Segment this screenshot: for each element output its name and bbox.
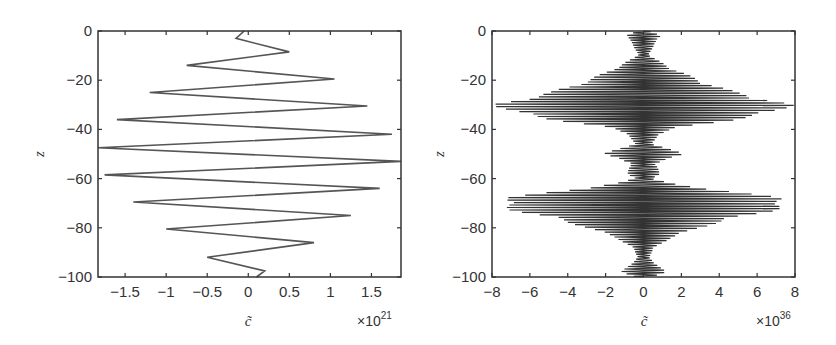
right-chart: −8−6−4−2024680−20−40−60−80−100 c̃ z ×103… (418, 0, 836, 345)
right-x-multiplier: ×1036 (756, 310, 791, 329)
right-data-line (496, 31, 794, 277)
right-y-tick-label: 0 (478, 22, 486, 39)
right-y-tick-label: −100 (452, 268, 486, 285)
right-x-tick-label: 8 (791, 283, 799, 300)
left-y-tick-label: −80 (67, 219, 92, 236)
left-y-tick-label: −60 (67, 170, 92, 187)
right-x-tick-label: −8 (483, 283, 500, 300)
right-y-tick-label: −60 (461, 170, 486, 187)
right-y-tick-label: −20 (461, 71, 486, 88)
right-plot-area (496, 31, 794, 277)
right-x-tick-label: −6 (521, 283, 538, 300)
left-x-tick-label: 1.5 (361, 283, 382, 300)
left-axes: −1.5−1−0.500.511.50−20−40−60−80−100 (58, 22, 401, 300)
right-x-tick-label: −2 (597, 283, 614, 300)
right-x-tick-label: −4 (559, 283, 576, 300)
left-y-axis-label: z (31, 151, 47, 158)
left-data-line (98, 31, 401, 277)
left-y-tick-label: −100 (58, 268, 92, 285)
left-chart: −1.5−1−0.500.511.50−20−40−60−80−100 c̃ z… (0, 0, 418, 345)
left-y-tick-label: −20 (67, 71, 92, 88)
right-x-tick-label: 6 (753, 283, 761, 300)
left-y-tick-label: 0 (84, 22, 92, 39)
left-x-tick-label: −1.5 (110, 283, 140, 300)
left-y-tick-label: −40 (67, 120, 92, 137)
left-x-tick-label: 0 (244, 283, 252, 300)
left-x-tick-label: −0.5 (192, 283, 222, 300)
right-y-tick-label: −80 (461, 219, 486, 236)
left-x-axis-label: c̃ (245, 313, 252, 329)
right-x-tick-label: 0 (639, 283, 647, 300)
right-x-tick-label: 2 (677, 283, 685, 300)
left-x-tick-label: −1 (158, 283, 175, 300)
left-x-tick-label: 1 (326, 283, 334, 300)
right-x-axis-label: c̃ (641, 313, 648, 329)
left-x-multiplier: ×1021 (357, 310, 392, 329)
right-y-tick-label: −40 (461, 120, 486, 137)
left-x-tick-label: 0.5 (279, 283, 300, 300)
right-x-tick-label: 4 (715, 283, 723, 300)
right-y-axis-label: z (431, 151, 447, 158)
left-plot-area (98, 31, 401, 277)
